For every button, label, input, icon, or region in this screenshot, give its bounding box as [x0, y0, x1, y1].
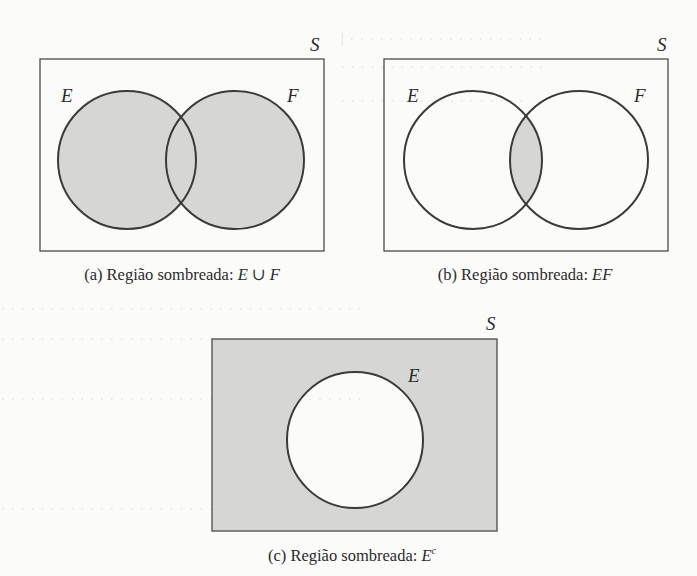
set-e-label: E	[60, 85, 73, 106]
universe-label: S	[486, 313, 496, 334]
set-f-label: F	[633, 85, 646, 106]
set-e-label: E	[407, 365, 420, 386]
venn-diagrams-figure: S E F S E F S E	[0, 0, 697, 576]
universe-label: S	[657, 34, 667, 55]
caption-text: (c) Região sombreada:	[268, 546, 421, 565]
caption-panel-c: (c) Região sombreada: Ec	[268, 545, 436, 566]
venn-panel-c-complement: S E	[212, 313, 497, 531]
venn-panel-b-intersection: S E F	[384, 34, 668, 251]
universe-label: S	[310, 34, 320, 55]
caption-text: (b) Região sombreada:	[438, 265, 592, 284]
complement-shade	[212, 339, 497, 531]
set-f-label: F	[286, 85, 299, 106]
caption-math: E	[421, 546, 431, 565]
venn-panel-a-union: S E F	[40, 34, 324, 251]
caption-text: (a) Região sombreada:	[84, 265, 237, 284]
caption-math: EF	[592, 265, 612, 284]
caption-superscript: c	[432, 545, 436, 556]
caption-panel-b: (b) Região sombreada: EF	[438, 265, 613, 285]
caption-math: E ∪ F	[238, 265, 280, 284]
caption-panel-a: (a) Região sombreada: E ∪ F	[84, 265, 280, 285]
set-e-label: E	[406, 85, 419, 106]
